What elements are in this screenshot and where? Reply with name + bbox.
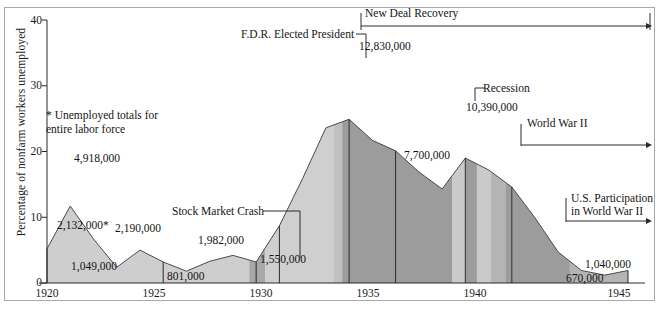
annotation-fdr-elected: F.D.R. Elected President — [241, 28, 354, 41]
value-label-1945: 1,040,000 — [585, 258, 631, 270]
value-label-1928: 1,982,000 — [198, 234, 244, 246]
value-label-1937: 7,700,000 — [404, 149, 450, 161]
annotation-us-participation-wwii: U.S. Participation in World War II — [571, 192, 653, 218]
value-label-1923: 1,049,000 — [71, 260, 117, 272]
value-label-1933: 12,830,000 — [359, 40, 411, 52]
annotation-new-deal-recovery: New Deal Recovery — [365, 7, 458, 20]
chart-figure: Percentage of nonfarm workers unemployed… — [0, 0, 660, 311]
value-label-1924: 2,190,000 — [115, 222, 161, 234]
value-label-1944: 670,000 — [566, 272, 603, 284]
annotation-stock-market-crash: Stock Market Crash — [172, 205, 264, 218]
value-label-1938: 10,390,000 — [466, 101, 518, 113]
footnote-unemployed-totals: * Unemployed totals for entire labor for… — [46, 109, 158, 136]
value-label-1920: 2,132,000* — [57, 219, 109, 231]
value-label-1926: 801,000 — [167, 270, 204, 282]
value-label-1921: 4,918,000 — [74, 152, 120, 164]
value-label-1929: 1,550,000 — [260, 253, 306, 265]
annotation-recession: Recession — [483, 82, 530, 95]
annotation-world-war-ii: World War II — [527, 117, 588, 130]
